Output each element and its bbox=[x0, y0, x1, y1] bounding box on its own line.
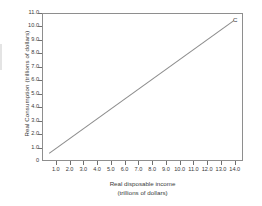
y-tick-mark bbox=[38, 26, 42, 27]
x-tick-mark bbox=[70, 161, 71, 165]
x-tick-mark bbox=[221, 161, 222, 165]
y-tick-label: 7.0 bbox=[14, 64, 39, 70]
y-tick-label: 5.0 bbox=[14, 91, 39, 97]
y-tick-mark bbox=[38, 94, 42, 95]
x-tick-label: 14.0 bbox=[224, 167, 246, 173]
x-tick-mark bbox=[111, 161, 112, 165]
x-tick-mark bbox=[56, 161, 57, 165]
x-tick-mark bbox=[193, 161, 194, 165]
y-tick-mark bbox=[38, 148, 42, 149]
y-tick-mark bbox=[38, 107, 42, 108]
y-tick-label: 11.0 bbox=[14, 10, 39, 16]
x-tick-mark bbox=[180, 161, 181, 165]
x-tick-mark bbox=[166, 161, 167, 165]
y-tick-mark bbox=[38, 80, 42, 81]
y-tick-label: 3.0 bbox=[14, 118, 39, 124]
series-annotation-c: C bbox=[233, 17, 237, 23]
y-tick-label: 9.0 bbox=[14, 37, 39, 43]
y-tick-mark bbox=[38, 40, 42, 41]
x-axis-title-line1: Real disposable income bbox=[42, 180, 243, 189]
scan-artifact bbox=[0, 44, 2, 70]
plot-svg bbox=[43, 14, 242, 160]
x-tick-mark bbox=[83, 161, 84, 165]
y-tick-label: 6.0 bbox=[14, 77, 39, 83]
y-tick-label: 4.0 bbox=[14, 104, 39, 110]
y-tick-label: 8.0 bbox=[14, 51, 39, 57]
y-tick-label: 2.0 bbox=[14, 131, 39, 137]
x-axis-title-line2: (trillions of dollars) bbox=[42, 189, 243, 198]
consumption-line bbox=[49, 21, 234, 154]
y-tick-mark bbox=[38, 121, 42, 122]
x-tick-mark bbox=[138, 161, 139, 165]
y-tick-mark bbox=[38, 134, 42, 135]
plot-area bbox=[42, 13, 243, 161]
x-tick-mark bbox=[207, 161, 208, 165]
x-axis-title: Real disposable income (trillions of dol… bbox=[42, 180, 243, 198]
x-tick-mark bbox=[125, 161, 126, 165]
consumption-function-chart: Real Consumption (trillions of dollars) … bbox=[0, 0, 262, 206]
y-tick-mark bbox=[38, 13, 42, 14]
x-tick-mark bbox=[152, 161, 153, 165]
y-tick-label: 10.0 bbox=[14, 24, 39, 30]
y-tick-label: 0 bbox=[14, 158, 39, 164]
y-axis-tick-labels: 01.02.03.04.05.06.07.08.09.010.011.0 bbox=[14, 13, 39, 161]
y-tick-label: 1.0 bbox=[14, 145, 39, 151]
y-tick-mark bbox=[38, 67, 42, 68]
x-tick-mark bbox=[97, 161, 98, 165]
y-tick-mark bbox=[38, 53, 42, 54]
x-tick-mark bbox=[235, 161, 236, 165]
